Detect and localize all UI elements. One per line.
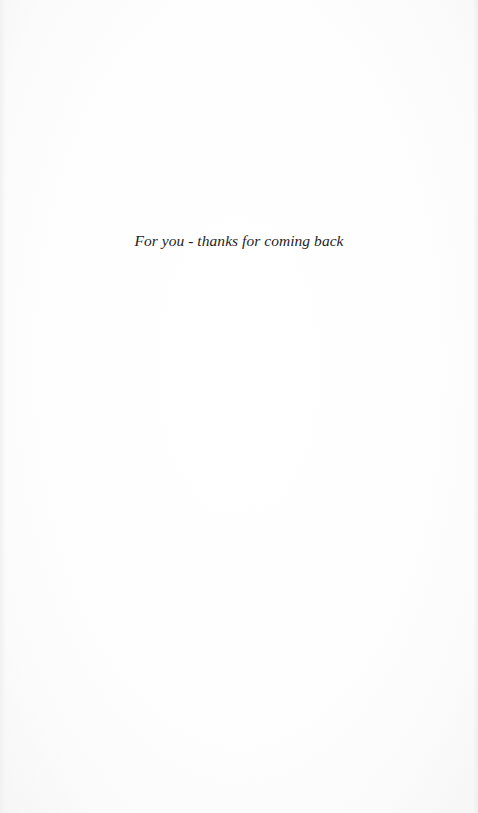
dedication-text: For you - thanks for coming back [0, 231, 478, 251]
book-page: For you - thanks for coming back [0, 0, 478, 813]
